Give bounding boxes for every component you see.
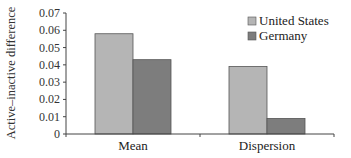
x-category-label: Dispersion xyxy=(239,138,296,153)
x-category-label: Mean xyxy=(118,138,148,153)
y-axis: 00.010.020.030.040.050.060.07 xyxy=(39,6,66,141)
bar xyxy=(229,67,267,134)
y-tick-label: 0.06 xyxy=(39,23,60,37)
y-tick-label: 0.07 xyxy=(39,6,60,20)
x-axis: MeanDispersion xyxy=(66,134,334,153)
y-tick-label: 0.04 xyxy=(39,58,60,72)
bar xyxy=(267,118,305,134)
y-tick-label: 0.01 xyxy=(39,110,60,124)
legend: United StatesGermany xyxy=(248,13,329,43)
y-axis-label: Active–inactive difference xyxy=(4,6,18,139)
y-tick-label: 0.02 xyxy=(39,92,60,106)
bar-chart: 00.010.020.030.040.050.060.07 MeanDisper… xyxy=(0,0,351,158)
legend-swatch xyxy=(248,32,256,40)
legend-label: Germany xyxy=(259,28,308,43)
legend-swatch xyxy=(248,17,256,25)
y-tick-label: 0 xyxy=(54,127,60,141)
bars xyxy=(95,34,305,134)
bar xyxy=(95,34,133,134)
bar xyxy=(133,60,171,134)
y-tick-label: 0.05 xyxy=(39,41,60,55)
y-tick-label: 0.03 xyxy=(39,75,60,89)
legend-label: United States xyxy=(259,13,329,28)
